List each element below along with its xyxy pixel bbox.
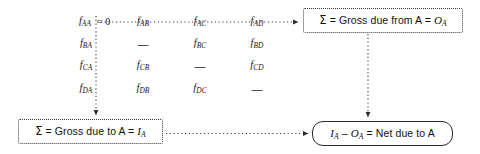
matrix-cell-DB: fDB xyxy=(137,83,150,94)
node-gross-due-to-a-text: = Gross due to A = xyxy=(43,125,138,137)
matrix-cell-DA: fDA xyxy=(80,83,93,94)
sigma-symbol-from: Σ xyxy=(319,13,326,27)
matrix-cell-BC: fBC xyxy=(194,38,207,49)
node-gross-due-to-a-label: Σ = Gross due to A = IA xyxy=(35,124,146,139)
node-gross-due-from-a-var: O xyxy=(434,14,442,26)
node-gross-due-from-a-var-sub: A xyxy=(442,19,447,28)
sigma-symbol-to: Σ xyxy=(35,124,42,138)
matrix-cell-BA: fBA xyxy=(80,38,92,49)
matrix-cell-BD: fBD xyxy=(251,38,264,49)
matrix-cell-DC: fDC xyxy=(193,83,206,94)
matrix-cell-AA: fAA xyxy=(79,16,91,27)
node-net-due-to-a: IA – OA = Net due to A xyxy=(312,121,453,146)
node-gross-due-from-a-text: = Gross due from A = xyxy=(327,14,434,26)
matrix-cell-AA-annotation: = 0 xyxy=(97,17,110,27)
node-gross-due-to-a-var-sub: A xyxy=(141,130,146,139)
flow-matrix-diagram: fAA = 0 fAB fAC fAD fBA — fBC fBD fCA fC… xyxy=(0,0,480,154)
flow-matrix: fAA = 0 fAB fAC fAD fBA — fBC fBD fCA fC… xyxy=(58,12,288,104)
node-net-due-to-a-label: IA – OA = Net due to A xyxy=(330,127,435,141)
matrix-cell-AB: fAB xyxy=(137,16,149,27)
node-gross-due-from-a-label: Σ = Gross due from A = OA xyxy=(319,13,446,28)
node-gross-due-to-a: Σ = Gross due to A = IA xyxy=(18,119,163,144)
matrix-cell-CB: fCB xyxy=(137,60,150,71)
matrix-cell-AC: fAC xyxy=(194,16,207,27)
node-net-minus: – xyxy=(339,127,351,139)
matrix-cell-DD-dash: — xyxy=(252,84,263,95)
matrix-cell-CC-dash: — xyxy=(195,61,206,72)
node-net-var2: O xyxy=(351,127,359,139)
matrix-cell-AD: fAD xyxy=(251,16,264,27)
node-gross-due-from-a: Σ = Gross due from A = OA xyxy=(303,8,463,33)
node-net-text: = Net due to A xyxy=(364,127,435,139)
matrix-cell-BB-dash: — xyxy=(138,39,149,50)
matrix-cell-CD: fCD xyxy=(250,60,263,71)
matrix-cell-CA: fCA xyxy=(80,60,93,71)
